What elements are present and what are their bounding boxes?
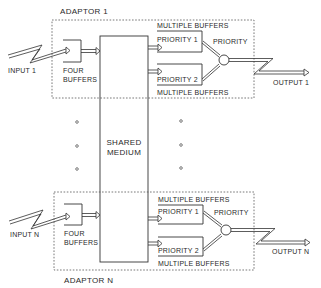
arrow-shared-to-priority-1 bbox=[148, 44, 162, 51]
shared-medium-switch-diagram: ADAPTOR 1 INPUT 1 FOUR BUFFERS MULTIPLE … bbox=[0, 0, 321, 288]
arrow-shared-to-priority-1-n bbox=[148, 215, 162, 222]
output-n-label: OUTPUT N bbox=[272, 248, 309, 255]
four-buffers-n-line1: FOUR bbox=[64, 230, 85, 237]
ellipsis-dots-right bbox=[180, 120, 183, 170]
input-n-label: INPUT N bbox=[10, 231, 39, 238]
adaptor-1-title: ADAPTOR 1 bbox=[60, 7, 108, 16]
priority-mux-node-1 bbox=[219, 55, 229, 65]
input-n-link-icon bbox=[9, 210, 70, 229]
output-1-link-icon bbox=[229, 59, 309, 77]
adaptor-1-top-caption: MULTIPLE BUFFERS bbox=[157, 22, 229, 29]
output-n-link-icon bbox=[231, 229, 310, 247]
priority-mux-arrows-n bbox=[203, 211, 222, 251]
arrow-buffers-1-to-shared bbox=[81, 48, 100, 55]
adaptor-1: ADAPTOR 1 INPUT 1 FOUR BUFFERS MULTIPLE … bbox=[8, 7, 309, 98]
adaptor-n-top-caption: MULTIPLE BUFFERS bbox=[158, 196, 230, 203]
adaptor-n-bottom-caption: MULTIPLE BUFFERS bbox=[158, 260, 230, 267]
shared-medium-label-line2: MEDIUM bbox=[107, 148, 141, 157]
input-1-link-icon bbox=[8, 45, 70, 63]
adaptor-1-bottom-caption: MULTIPLE BUFFERS bbox=[157, 89, 229, 96]
arrow-shared-to-priority-2 bbox=[148, 68, 162, 75]
arrow-buffers-n-to-shared bbox=[82, 212, 100, 219]
four-buffers-1-line2: BUFFERS bbox=[63, 76, 97, 83]
priority-mux-node-n bbox=[221, 225, 231, 235]
priority-mux-label-1: PRIORITY bbox=[213, 38, 248, 45]
four-buffers-1-line1: FOUR bbox=[63, 67, 84, 74]
input-1-label: INPUT 1 bbox=[8, 67, 36, 74]
output-1-label: OUTPUT 1 bbox=[273, 79, 309, 86]
priority-mux-arrows-1 bbox=[202, 41, 220, 81]
adaptor-n: ADAPTOR N INPUT N FOUR BUFFERS MULTIPLE … bbox=[9, 192, 310, 285]
priority-1-label-n: PRIORITY 1 bbox=[158, 208, 199, 215]
shared-medium-label-line1: SHARED bbox=[106, 138, 141, 147]
priority-mux-label-n: PRIORITY bbox=[214, 209, 249, 216]
adaptor-n-title: ADAPTOR N bbox=[64, 276, 113, 285]
priority-2-label-n: PRIORITY 2 bbox=[158, 247, 199, 254]
priority-2-label-1: PRIORITY 2 bbox=[157, 76, 198, 83]
ellipsis-dots-left bbox=[76, 121, 79, 171]
arrow-shared-to-priority-2-n bbox=[148, 240, 162, 247]
four-buffers-n-line2: BUFFERS bbox=[64, 239, 98, 246]
priority-1-label-1: PRIORITY 1 bbox=[157, 36, 198, 43]
